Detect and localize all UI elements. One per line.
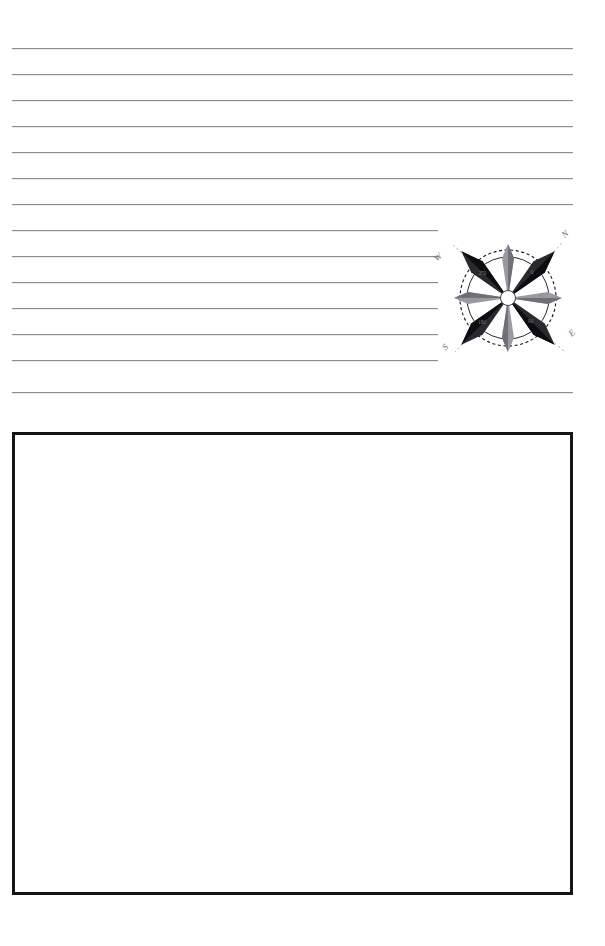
writing-line	[12, 392, 573, 393]
writing-line	[12, 48, 573, 49]
writing-line	[12, 126, 573, 127]
writing-line	[12, 100, 573, 101]
svg-text:45: 45	[539, 292, 545, 298]
writing-line	[12, 152, 573, 153]
notebook-page: 0 45 90 135 180 225 270 315 N E S W	[0, 0, 605, 946]
svg-text:270: 270	[479, 270, 487, 276]
writing-line	[12, 230, 438, 231]
writing-line	[12, 178, 573, 179]
writing-line	[12, 308, 438, 309]
svg-text:180: 180	[478, 319, 486, 325]
svg-text:135: 135	[501, 328, 509, 334]
writing-line	[12, 74, 573, 75]
writing-line	[12, 204, 573, 205]
drawing-box-content[interactable]	[15, 435, 570, 892]
drawing-box[interactable]	[12, 432, 573, 895]
svg-text:0: 0	[531, 269, 534, 275]
writing-line	[12, 360, 438, 361]
writing-line	[12, 334, 438, 335]
svg-text:90: 90	[528, 318, 534, 324]
writing-line	[12, 282, 438, 283]
svg-text:225: 225	[469, 296, 477, 302]
svg-text:315: 315	[505, 260, 513, 266]
compass-rose: 0 45 90 135 180 225 270 315 N E S W	[423, 218, 593, 378]
writing-line	[12, 256, 438, 257]
